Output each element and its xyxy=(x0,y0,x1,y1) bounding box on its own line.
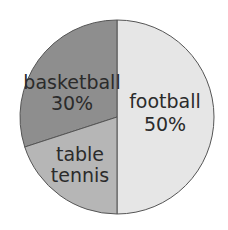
label-football-name: football xyxy=(129,90,201,112)
label-basketball-name: basketball xyxy=(23,71,120,93)
label-table-tennis-line2: tennis xyxy=(51,164,109,186)
pie-chart: basketball 30% football 50% table tennis xyxy=(0,0,228,230)
label-football-pct: 50% xyxy=(144,113,186,135)
label-basketball-pct: 30% xyxy=(51,92,93,114)
label-table-tennis-line1: table xyxy=(56,143,104,165)
